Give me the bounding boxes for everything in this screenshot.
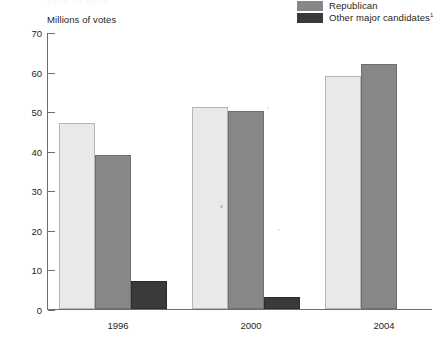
scan-speck (220, 205, 223, 208)
legend-label-republican: Republican (329, 1, 378, 11)
scan-speck (278, 229, 280, 231)
footnote-marker: 1 (430, 11, 433, 17)
x-label-1996: 1996 (59, 320, 177, 331)
bar-1996-republican[interactable] (95, 155, 131, 309)
cropped-title-remnant: 1996 to 2004 (46, 0, 109, 6)
legend-swatch-other (297, 13, 323, 23)
bar-2000-republican[interactable] (228, 111, 264, 309)
bar-groups: 1996 2000 2004 (48, 33, 432, 309)
plot-area: 70 60 50 40 30 20 10 0 1996 2000 2004 (47, 33, 432, 310)
legend-label-other: Other major candidates1 (329, 13, 433, 23)
scan-speck (267, 107, 269, 109)
x-label-2004: 2004 (325, 320, 438, 331)
bar-2000-democratic[interactable] (192, 107, 228, 309)
group-1996: 1996 (59, 33, 177, 309)
bar-2004-democratic[interactable] (325, 76, 361, 309)
bar-2000-other[interactable] (264, 297, 300, 309)
bar-1996-other[interactable] (131, 281, 167, 309)
bar-1996-democratic[interactable] (59, 123, 95, 309)
y-axis-title: Millions of votes (47, 14, 116, 25)
bar-2004-republican[interactable] (361, 64, 397, 309)
legend: Republican Other major candidates1 (297, 0, 438, 24)
legend-item-republican: Republican (297, 0, 438, 11)
legend-swatch-republican (297, 1, 323, 11)
group-2004: 2004 (325, 33, 438, 309)
x-axis-line (47, 309, 432, 310)
group-2000: 2000 (192, 33, 310, 309)
x-label-2000: 2000 (192, 320, 310, 331)
legend-item-other: Other major candidates1 (297, 12, 438, 23)
